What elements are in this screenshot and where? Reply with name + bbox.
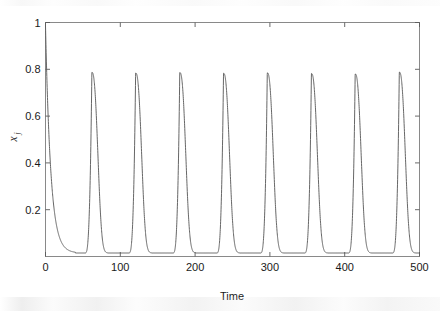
x-tick-label: 200 xyxy=(186,261,204,273)
x-axis-title: Time xyxy=(220,290,244,302)
y-axis-tick-labels: 0.20.40.60.81 xyxy=(25,17,40,216)
data-series-line xyxy=(46,26,420,253)
x-tick-label: 0 xyxy=(42,261,48,273)
y-tick-label: 0.6 xyxy=(25,110,40,122)
y-axis-ticks xyxy=(46,23,420,210)
y-tick-label: 0.4 xyxy=(25,157,40,169)
y-tick-label: 1 xyxy=(34,17,40,29)
y-tick-label: 0.8 xyxy=(25,63,40,75)
x-tick-label: 300 xyxy=(261,261,279,273)
x-tick-label: 500 xyxy=(410,261,428,273)
time-series-chart: 0100200300400500 0.20.40.60.81 Time x j xyxy=(0,0,440,311)
y-axis-title-subscript: j xyxy=(13,132,22,135)
figure-container: 0100200300400500 0.20.40.60.81 Time x j xyxy=(0,0,440,311)
y-tick-label: 0.2 xyxy=(25,204,40,216)
x-tick-label: 100 xyxy=(111,261,129,273)
y-axis-title-group: x j xyxy=(7,132,22,142)
x-axis-tick-labels: 0100200300400500 xyxy=(42,261,428,273)
y-axis-title: x xyxy=(7,136,19,143)
x-tick-label: 400 xyxy=(336,261,354,273)
